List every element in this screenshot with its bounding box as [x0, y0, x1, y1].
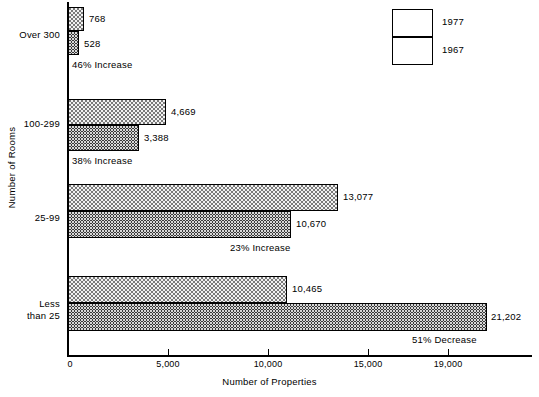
bar-1977-100-299 — [68, 99, 166, 125]
x-axis-tick-label: 5,000 — [156, 359, 180, 369]
bar-value-1967-25-99: 10,670 — [296, 218, 326, 229]
category-label-less-than-25: Less than 25 — [27, 298, 60, 322]
y-axis-title: Number of Rooms — [6, 113, 17, 223]
x-axis-line — [67, 355, 532, 357]
legend-label-1967: 1967 — [442, 44, 464, 55]
change-annotation-100-299: 38% Increase — [72, 155, 133, 166]
bar-1977-25-99 — [68, 184, 338, 211]
bar-value-1977-100-299: 4,669 — [171, 106, 196, 117]
change-annotation-over-300: 46% Increase — [72, 59, 133, 70]
legend-swatch-1967 — [392, 37, 433, 65]
change-annotation-25-99: 23% Increase — [230, 242, 291, 253]
bar-value-1977-over-300: 768 — [89, 13, 105, 24]
x-axis-tick — [368, 349, 369, 356]
x-axis-tick-label: 19,000 — [434, 359, 463, 369]
category-label-100-299: 100-299 — [24, 118, 60, 130]
bar-1977-less-than-25 — [68, 276, 287, 303]
x-axis-tick-label: 10,000 — [254, 359, 283, 369]
change-annotation-less-than-25: 51% Decrease — [412, 334, 477, 345]
bar-1967-25-99 — [68, 211, 291, 238]
plot-area: 0 5,000 10,000 15,000 19,000 Number of P… — [0, 0, 539, 397]
bar-value-1967-100-299: 3,388 — [144, 132, 169, 143]
figure-bar-chart: 0 5,000 10,000 15,000 19,000 Number of P… — [0, 0, 539, 397]
x-axis-tick — [268, 349, 269, 356]
bar-1967-less-than-25 — [68, 303, 487, 331]
bar-value-1967-over-300: 528 — [84, 38, 100, 49]
x-axis-tick — [68, 349, 69, 356]
legend-swatch-1977 — [392, 9, 433, 37]
x-axis-tick — [448, 349, 449, 356]
category-label-25-99: 25-99 — [35, 212, 60, 224]
legend-label-1977: 1977 — [442, 16, 464, 27]
x-axis-tick-label: 0 — [67, 359, 72, 369]
bar-1977-over-300 — [68, 7, 84, 31]
bar-value-1977-less-than-25: 10,465 — [292, 283, 322, 294]
bar-1967-over-300 — [68, 31, 79, 55]
legend: 1977 1967 — [392, 9, 510, 67]
bar-value-1967-less-than-25: 21,202 — [491, 311, 521, 322]
x-axis-tick-label: 15,000 — [354, 359, 383, 369]
bar-value-1977-25-99: 13,077 — [343, 191, 373, 202]
x-axis-tick — [168, 349, 169, 356]
x-axis-title: Number of Properties — [0, 376, 539, 387]
category-label-over-300: Over 300 — [19, 29, 60, 41]
bar-1967-100-299 — [68, 125, 139, 151]
